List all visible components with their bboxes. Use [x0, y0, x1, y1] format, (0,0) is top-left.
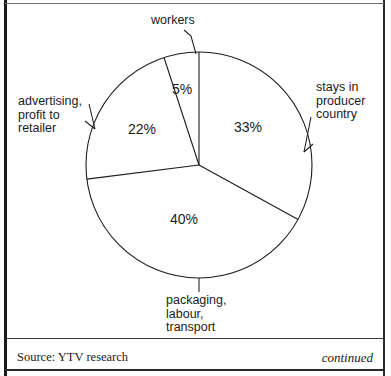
- slice-label-stays-line1: stays in: [316, 80, 358, 94]
- slice-label-advertising-profit-to-retailer: advertising,profit toretailer: [18, 95, 82, 136]
- slice-label-stays-in-producer-country: stays inproducercountry: [316, 81, 365, 122]
- slice-label-packaging-line3: transport: [166, 320, 215, 334]
- slice-value-stays: 33%: [234, 119, 262, 135]
- slice-label-packaging-line1: packaging,: [166, 293, 226, 307]
- slice-label-advertising-line1: advertising,: [18, 94, 82, 108]
- slice-label-packaging-labour-transport: packaging,labour,transport: [166, 294, 226, 335]
- slice-value-workers: 5%: [172, 81, 192, 97]
- chart-page: workers stays inproducercountry advertis…: [0, 0, 391, 376]
- slice-label-workers-line1: workers: [151, 13, 195, 27]
- source-note: Source: YTV research: [17, 350, 128, 365]
- slice-label-stays-line2: producer: [316, 94, 365, 108]
- slice-label-workers: workers: [151, 14, 195, 28]
- leader-line-workers: [184, 30, 196, 54]
- slice-value-advertising: 22%: [128, 121, 156, 137]
- slice-label-advertising-line2: profit to: [18, 108, 60, 122]
- slice-label-advertising-line3: retailer: [18, 121, 56, 135]
- slice-label-stays-line3: country: [316, 107, 357, 121]
- slice-value-packaging: 40%: [170, 211, 198, 227]
- slice-label-packaging-line2: labour,: [166, 307, 204, 321]
- continued-note: continued: [322, 350, 373, 366]
